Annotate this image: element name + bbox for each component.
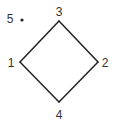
edge-4-1 (20, 62, 59, 102)
vertex-label-2: 2 (102, 57, 109, 69)
edge-2-4 (59, 62, 98, 102)
edge-3-2 (59, 21, 98, 62)
edge-1-3 (20, 21, 59, 62)
vertex-label-4: 4 (56, 109, 63, 121)
vertex-label-3: 3 (56, 6, 63, 18)
vertex-5-dot (20, 18, 23, 21)
vertex-label-5: 5 (7, 13, 14, 25)
vertex-label-1: 1 (8, 57, 15, 69)
graph-diagram: 5 3 1 2 4 (0, 0, 114, 126)
